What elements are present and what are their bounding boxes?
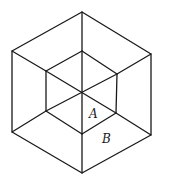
label-a: A: [89, 108, 98, 120]
connector-upper-left: [12, 51, 46, 71]
connector-lower-left: [12, 111, 46, 132]
connector-upper-right: [117, 54, 151, 74]
connector-lower-right: [116, 113, 151, 135]
label-b: B: [102, 133, 111, 145]
nested-cube-diagram: [0, 0, 169, 185]
spoke-diag-1: [46, 71, 116, 113]
